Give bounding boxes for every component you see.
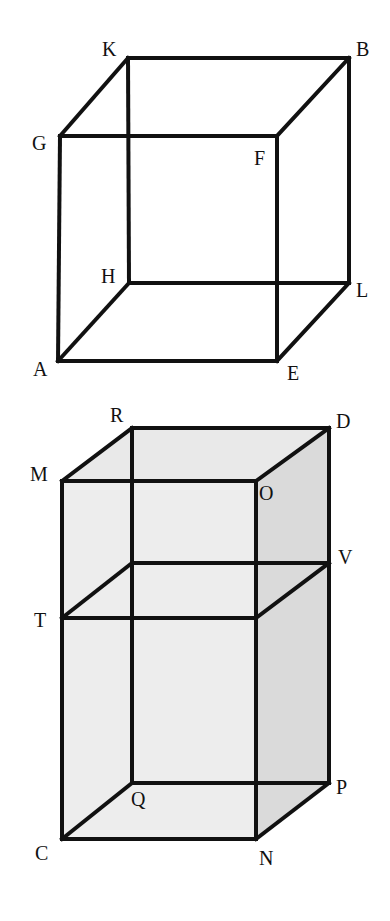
edge-GA bbox=[58, 136, 60, 361]
vertex-label-M: M bbox=[30, 463, 48, 485]
edge-BF bbox=[277, 58, 349, 136]
edge-HA bbox=[58, 283, 129, 361]
vertex-label-G: G bbox=[32, 132, 46, 154]
edge-KH bbox=[128, 58, 129, 283]
edge-LE bbox=[277, 283, 349, 361]
shaded-face bbox=[62, 481, 256, 839]
vertex-label-C: C bbox=[35, 842, 48, 864]
cube-figure: KBGFHLAE bbox=[32, 38, 369, 384]
vertex-label-T: T bbox=[34, 609, 46, 631]
vertex-label-V: V bbox=[338, 546, 353, 568]
vertex-label-D: D bbox=[336, 410, 350, 432]
rectangular-prism-figure: RDMOVTQPCN bbox=[30, 404, 353, 869]
vertex-label-O: O bbox=[259, 482, 273, 504]
vertex-label-A: A bbox=[33, 358, 48, 380]
vertex-label-N: N bbox=[259, 847, 273, 869]
vertex-label-L: L bbox=[356, 279, 368, 301]
vertex-label-R: R bbox=[110, 404, 124, 426]
vertex-label-K: K bbox=[102, 38, 117, 60]
vertex-label-P: P bbox=[336, 776, 347, 798]
vertex-label-H: H bbox=[101, 265, 115, 287]
edge-KG bbox=[60, 58, 128, 136]
vertex-label-E: E bbox=[287, 362, 299, 384]
geometry-diagram: KBGFHLAE RDMOVTQPCN bbox=[0, 0, 390, 921]
vertex-label-B: B bbox=[356, 38, 369, 60]
vertex-label-Q: Q bbox=[131, 788, 146, 810]
vertex-label-F: F bbox=[254, 147, 265, 169]
